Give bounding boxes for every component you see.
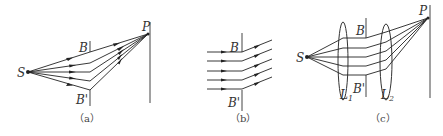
- ray: [207, 68, 272, 80]
- ray: [28, 34, 148, 72]
- label-p: P: [141, 20, 151, 34]
- label-l1: L1: [339, 88, 353, 103]
- label-b: B: [78, 41, 88, 55]
- label-b-prime: B': [352, 82, 365, 96]
- label-s: S: [17, 66, 25, 80]
- ray: [307, 18, 428, 57]
- label-b: B: [355, 24, 365, 38]
- caption-b: （b）: [230, 113, 256, 124]
- ray: [28, 34, 148, 81]
- caption-a: （a）: [74, 113, 100, 124]
- label-b-prime: B': [227, 96, 240, 110]
- ray: [207, 77, 272, 89]
- arrow-heads: [66, 43, 124, 86]
- ray: [207, 40, 272, 52]
- label-b-prime: B': [75, 93, 88, 107]
- label-l2: L2: [380, 88, 394, 103]
- panel-c: S B B' P L1 L2 （c）: [296, 4, 430, 124]
- ray: [207, 49, 272, 61]
- label-p: P: [418, 4, 428, 18]
- label-s: S: [296, 51, 304, 65]
- ray: [28, 34, 148, 90]
- ray: [307, 18, 428, 66]
- diffraction-diagram: S B B' P （a） B B' （b）: [0, 0, 443, 136]
- caption-c: （c）: [370, 113, 396, 124]
- panel-a: S B B' P （a）: [17, 20, 151, 124]
- source-point: [305, 55, 309, 59]
- panel-b: B B' （b）: [207, 33, 272, 124]
- label-b: B: [229, 41, 239, 55]
- ray: [307, 18, 428, 75]
- source-point: [26, 70, 30, 74]
